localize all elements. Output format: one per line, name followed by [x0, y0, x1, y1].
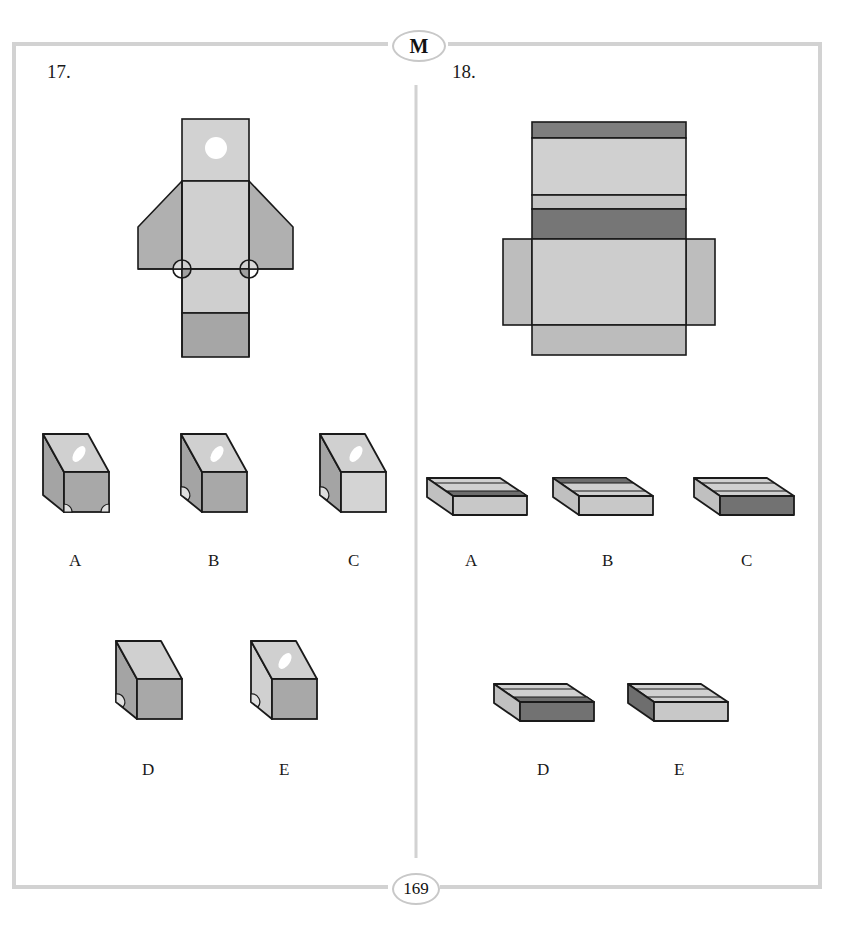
option-18a-label[interactable]: A [465, 551, 477, 571]
option-18a-box [427, 478, 527, 515]
option-18d-box [494, 684, 594, 721]
option-18b-box [553, 478, 653, 515]
option-18d-label[interactable]: D [537, 760, 549, 780]
option-18e-label[interactable]: E [674, 760, 684, 780]
option-18c-label[interactable]: C [741, 551, 752, 571]
option-18b-label[interactable]: B [602, 551, 613, 571]
question-18-options [0, 0, 863, 936]
option-18c-box [694, 478, 794, 515]
option-18e-box [628, 684, 728, 721]
